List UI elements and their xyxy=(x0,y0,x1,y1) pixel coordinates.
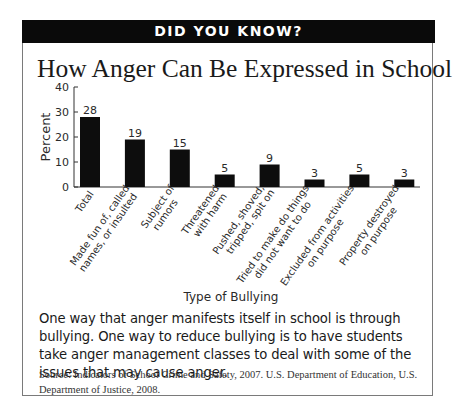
bar xyxy=(349,175,369,188)
y-tick-label: 10 xyxy=(55,156,69,169)
y-axis-label: Percent xyxy=(38,113,53,162)
bar-value-label: 28 xyxy=(83,104,97,117)
bars: 28191559353 xyxy=(80,104,414,187)
svg-text:Total: Total xyxy=(73,189,96,215)
y-tick-label: 30 xyxy=(55,106,69,119)
bar xyxy=(80,117,100,187)
bar-value-label: 19 xyxy=(128,127,142,140)
svg-text:Made fun of, callednames, or i: Made fun of, callednames, or insulted xyxy=(68,183,141,274)
bar xyxy=(260,165,280,188)
svg-text:Subject ofrumors: Subject ofrumors xyxy=(139,182,186,236)
bar-value-label: 9 xyxy=(266,152,273,165)
x-category-label: Subject ofrumors xyxy=(139,182,186,236)
bar xyxy=(215,175,235,188)
bar xyxy=(305,180,325,188)
bar-value-label: 3 xyxy=(401,167,408,180)
y-tick-label: 20 xyxy=(55,131,69,144)
bar-value-label: 5 xyxy=(221,162,228,175)
x-category-label: Total xyxy=(73,189,96,215)
bar xyxy=(170,150,190,188)
y-tick-label: 40 xyxy=(55,81,69,94)
bar-chart: 010203040 28191559353 TotalMade fun of, … xyxy=(0,0,454,419)
y-tick-label: 0 xyxy=(62,181,69,194)
bar-value-label: 15 xyxy=(173,137,187,150)
bar xyxy=(394,180,414,188)
x-category-label: Made fun of, callednames, or insulted xyxy=(68,183,141,274)
x-axis-label: Type of Bullying xyxy=(183,290,279,304)
x-axis-labels: TotalMade fun of, callednames, or insult… xyxy=(68,181,410,294)
bar-value-label: 3 xyxy=(311,167,318,180)
bar-value-label: 5 xyxy=(356,162,363,175)
bar xyxy=(125,140,145,188)
